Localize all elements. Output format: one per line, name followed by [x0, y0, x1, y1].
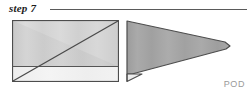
figure-after [126, 20, 233, 82]
figure-before [12, 20, 119, 82]
wedge-corner-notch [127, 74, 142, 82]
watermark-label: POD [224, 79, 245, 90]
figures-container [0, 18, 249, 92]
header-rule [50, 9, 247, 10]
diagram-page: step 7 [0, 0, 249, 92]
wedge-body [127, 21, 230, 74]
step-header: step 7 [0, 0, 249, 18]
step-label: step 7 [9, 1, 36, 15]
sheet-flap-strip [13, 67, 119, 82]
